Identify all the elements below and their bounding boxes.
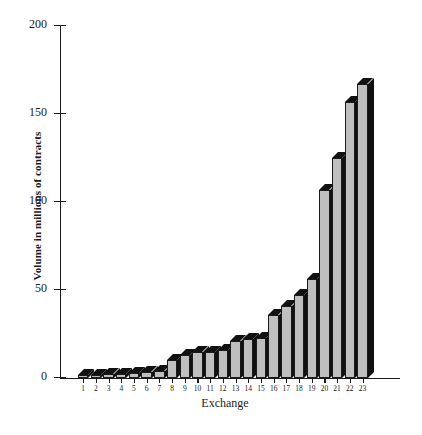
x-axis-tick-label: 18 (295, 384, 303, 393)
x-axis-tick-label: 1 (81, 384, 85, 393)
bar-face (332, 158, 342, 378)
x-axis-tick (159, 378, 160, 383)
bar-face (256, 338, 266, 378)
x-axis-tick-label: 3 (107, 384, 111, 393)
x-axis-tick-label: 9 (183, 384, 187, 393)
bar-face (192, 352, 202, 378)
x-axis-tick-label: 7 (158, 384, 162, 393)
bar-face (103, 374, 113, 378)
x-axis-tick (274, 378, 275, 383)
x-axis-tick (261, 378, 262, 383)
x-axis-tick-label: 2 (94, 384, 98, 393)
bar-face (281, 306, 291, 378)
bar-face (243, 339, 253, 378)
x-axis-tick-label: 17 (283, 384, 291, 393)
x-axis-tick (210, 378, 211, 383)
bar-face (141, 372, 151, 378)
x-axis-tick (324, 378, 325, 383)
x-axis-tick-label: 14 (244, 384, 252, 393)
y-axis-tick-label: 100 (29, 193, 47, 208)
bar-face (129, 373, 139, 378)
x-axis-tick (134, 378, 135, 383)
chart-figure: Volume in millions of contracts Exchange… (0, 0, 422, 435)
y-axis-tick-label: 200 (29, 17, 47, 32)
x-axis-tick (248, 378, 249, 383)
bar-side-shading (368, 78, 374, 378)
x-axis-tick-label: 19 (308, 384, 316, 393)
x-axis-tick-label: 12 (219, 384, 227, 393)
x-axis-tick (109, 378, 110, 383)
bar-face (205, 352, 215, 378)
bar-face (294, 295, 304, 378)
x-axis-tick (185, 378, 186, 383)
x-axis-tick-label: 10 (194, 384, 202, 393)
x-axis-tick (121, 378, 122, 383)
x-axis-tick (147, 378, 148, 383)
x-axis-tick (236, 378, 237, 383)
bar-face (307, 279, 317, 378)
x-axis-tick-label: 22 (346, 384, 354, 393)
bar-face (230, 341, 240, 378)
x-axis-tick-label: 5 (132, 384, 136, 393)
x-axis-tick (299, 378, 300, 383)
y-axis-line (60, 26, 61, 378)
x-axis-tick-label: 23 (359, 384, 367, 393)
x-axis-tick (83, 378, 84, 383)
x-axis-tick-label: 6 (145, 384, 149, 393)
bar-face (180, 355, 190, 378)
bar-face (345, 102, 355, 378)
bar-face (154, 371, 164, 378)
bar-face (116, 374, 126, 378)
x-axis-tick-label: 11 (207, 384, 214, 393)
x-axis-tick-label: 4 (119, 384, 123, 393)
y-axis-tick: 0 (54, 377, 66, 378)
x-axis-tick (172, 378, 173, 383)
x-axis-tick-label: 16 (270, 384, 278, 393)
bar-face (218, 350, 228, 378)
x-axis-tick-label: 13 (232, 384, 240, 393)
x-axis-tick-label: 8 (170, 384, 174, 393)
x-axis-tick (312, 378, 313, 383)
bar-face (357, 84, 367, 378)
y-axis-tick-label: 0 (41, 369, 47, 384)
plot-area: 050100150200 123456789101112131415161718… (60, 26, 400, 378)
x-axis-tick (96, 378, 97, 383)
x-axis-tick (350, 378, 351, 383)
x-axis-tick-label: 21 (333, 384, 341, 393)
bar-face (268, 315, 278, 378)
x-axis-tick (337, 378, 338, 383)
bar-face (78, 375, 88, 378)
y-axis-tick: 150 (54, 113, 66, 114)
x-axis-tick (197, 378, 198, 383)
x-axis-tick (223, 378, 224, 383)
x-axis-title: Exchange (60, 396, 390, 411)
y-axis-tick-label: 50 (35, 281, 47, 296)
x-axis-tick-label: 20 (321, 384, 329, 393)
bar-face (91, 375, 101, 378)
bar-face (167, 360, 177, 378)
y-axis-tick-label: 150 (29, 105, 47, 120)
x-axis-tick-label: 15 (257, 384, 265, 393)
bar-face (319, 190, 329, 378)
y-axis-tick: 200 (54, 25, 66, 26)
bar[interactable] (357, 78, 373, 378)
y-axis-tick: 50 (54, 289, 66, 290)
x-axis-tick (363, 378, 364, 383)
x-axis-tick (286, 378, 287, 383)
y-axis-tick: 100 (54, 201, 66, 202)
